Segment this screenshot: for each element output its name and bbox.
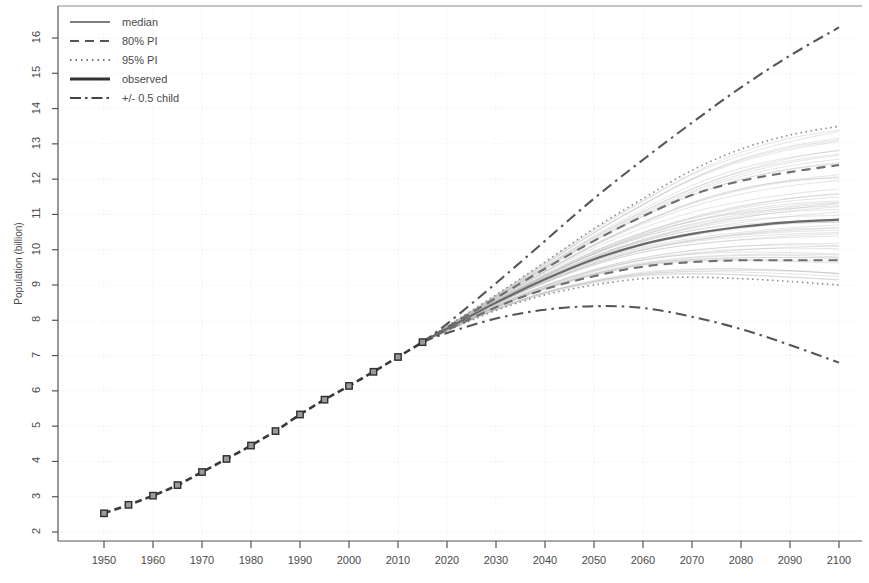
- x-tick-label: 2080: [718, 554, 764, 566]
- y-tick-label: 14: [30, 95, 42, 121]
- x-tick-label: 2100: [816, 554, 862, 566]
- legend-item-80-pi: 80% PI: [68, 31, 179, 50]
- trajectory-fan: [423, 130, 840, 342]
- series-80-pi-lower: [423, 260, 840, 342]
- x-tick-label: 1960: [130, 554, 176, 566]
- series-80-pi-upper: [423, 165, 840, 342]
- trajectory-path: [423, 260, 840, 342]
- x-tick-label: 2000: [326, 554, 372, 566]
- y-tick-label: 3: [30, 483, 42, 509]
- legend-line-icon: [68, 15, 112, 29]
- data-point: [101, 510, 107, 516]
- data-point: [346, 383, 352, 389]
- trajectory-path: [423, 236, 840, 342]
- legend-item-observed: observed: [68, 69, 179, 88]
- legend-line-icon: [68, 53, 112, 67]
- trajectory-path: [423, 255, 840, 342]
- legend-label: 95% PI: [122, 53, 157, 67]
- legend-label: 80% PI: [122, 34, 157, 48]
- legend-item-95-pi: 95% PI: [68, 50, 179, 69]
- data-point: [150, 492, 156, 498]
- legend-label: +/- 0.5 child: [122, 91, 179, 105]
- x-tick-label: 1950: [81, 554, 127, 566]
- x-tick-label: 1990: [277, 554, 323, 566]
- y-tick-label: 11: [30, 200, 42, 226]
- y-tick-label: 6: [30, 377, 42, 403]
- data-point: [125, 502, 131, 508]
- legend-label: observed: [122, 72, 167, 86]
- y-tick-label: 13: [30, 130, 42, 156]
- data-point: [370, 369, 376, 375]
- y-tick-label: 8: [30, 306, 42, 332]
- data-point: [248, 442, 254, 448]
- trajectory-path: [423, 248, 840, 342]
- x-tick-label: 1970: [179, 554, 225, 566]
- legend-item--0-5-child: +/- 0.5 child: [68, 88, 179, 107]
- legend-item-median: median: [68, 12, 179, 31]
- x-tick-label: 2020: [424, 554, 470, 566]
- trajectory-path: [423, 159, 840, 342]
- y-tick-label: 2: [30, 518, 42, 544]
- data-point: [321, 396, 327, 402]
- data-point: [223, 456, 229, 462]
- x-tick-label: 2050: [571, 554, 617, 566]
- trajectory-path: [423, 260, 840, 343]
- y-tick-label: 4: [30, 447, 42, 473]
- chart-legend: median80% PI95% PIobserved+/- 0.5 child: [68, 12, 179, 107]
- series--0-5-child: [423, 27, 840, 342]
- data-point: [419, 339, 425, 345]
- trajectory-path: [423, 225, 840, 342]
- x-tick-label: 2030: [473, 554, 519, 566]
- x-tick-label: 2090: [767, 554, 813, 566]
- legend-line-icon: [68, 72, 112, 86]
- data-point: [199, 469, 205, 475]
- population-projection-chart: Population (billion) median80% PI95% PIo…: [0, 0, 869, 583]
- x-tick-label: 2010: [375, 554, 421, 566]
- y-tick-label: 7: [30, 342, 42, 368]
- data-point: [297, 411, 303, 417]
- observed-markers: [101, 339, 426, 517]
- y-tick-label: 9: [30, 271, 42, 297]
- x-tick-label: 2040: [522, 554, 568, 566]
- y-tick-label: 10: [30, 236, 42, 262]
- legend-label: median: [122, 15, 158, 29]
- y-tick-label: 12: [30, 165, 42, 191]
- y-tick-label: 16: [30, 24, 42, 50]
- y-tick-label: 5: [30, 412, 42, 438]
- y-axis-title: Population (billion): [13, 204, 24, 324]
- x-tick-label: 1980: [228, 554, 274, 566]
- data-point: [395, 354, 401, 360]
- trajectory-path: [423, 175, 840, 343]
- legend-line-icon: [68, 91, 112, 105]
- x-tick-label: 2060: [620, 554, 666, 566]
- y-tick-label: 15: [30, 59, 42, 85]
- series-observed: [104, 342, 423, 513]
- data-point: [174, 482, 180, 488]
- x-tick-label: 2070: [669, 554, 715, 566]
- legend-line-icon: [68, 34, 112, 48]
- data-point: [272, 428, 278, 434]
